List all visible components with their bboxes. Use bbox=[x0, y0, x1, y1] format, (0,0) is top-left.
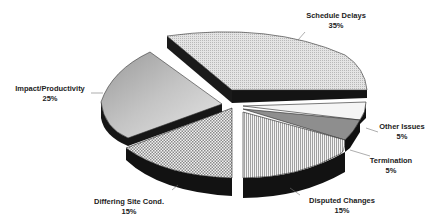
label-schedule-delays: Schedule Delays 35% bbox=[306, 11, 366, 31]
label-name: Schedule Delays bbox=[306, 11, 366, 21]
label-name: Disputed Changes bbox=[309, 196, 375, 206]
label-pct: 25% bbox=[15, 94, 85, 104]
label-impact-productivity: Impact/Productivity 25% bbox=[15, 84, 85, 104]
label-disputed-changes: Disputed Changes 15% bbox=[309, 196, 375, 216]
label-pct: 15% bbox=[94, 207, 164, 217]
label-pct: 5% bbox=[379, 132, 424, 142]
label-differing-site-cond: Differing Site Cond. 15% bbox=[94, 197, 164, 217]
label-pct: 5% bbox=[370, 166, 412, 176]
label-name: Impact/Productivity bbox=[15, 84, 85, 94]
pie-chart bbox=[0, 0, 444, 223]
label-name: Differing Site Cond. bbox=[94, 197, 164, 207]
label-name: Other Issues bbox=[379, 122, 424, 132]
label-termination: Termination 5% bbox=[370, 156, 412, 176]
label-pct: 35% bbox=[306, 21, 366, 31]
label-pct: 15% bbox=[309, 206, 375, 216]
label-other-issues: Other Issues 5% bbox=[379, 122, 424, 142]
label-name: Termination bbox=[370, 156, 412, 166]
